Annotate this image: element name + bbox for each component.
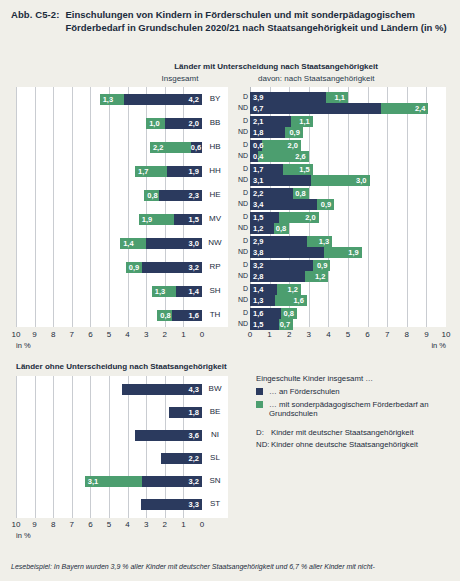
legend-item-grundschulen: … mit sonderpädagogischem Förderbedarf a… <box>256 400 456 419</box>
bar-value-label: 3,0 <box>146 238 199 249</box>
bar-value-label: 3,3 <box>141 499 199 510</box>
footnote: Lesebeispiel: In Bayern wurden 3,9 % all… <box>11 562 455 571</box>
subheading-davon: davon: nach Staatsangehörigkeit <box>258 74 458 83</box>
bar-value-label: 4,3 <box>122 384 199 395</box>
group-label-d: D <box>228 212 248 221</box>
bar-value-label: 1,5 <box>174 214 199 225</box>
bar-value-label: 1,0 <box>149 118 159 129</box>
axis-unit: in % <box>16 531 31 540</box>
plot-area-ohne: 4,31,83,62,23,13,23,3 <box>16 376 202 518</box>
bar-value-label: 1,1 <box>291 116 310 127</box>
bar-value-label: 3,2 <box>142 476 199 487</box>
figure-title-block: Abb. C5-2: Einschulungen von Kindern in … <box>11 9 453 34</box>
axis-tick: 9 <box>32 330 36 339</box>
bar-value-label: 3,6 <box>135 430 199 441</box>
chart-bottom-heading: Länder ohne Unterscheidung nach Staatsan… <box>16 362 227 371</box>
group-label-d: D <box>228 116 248 125</box>
axis-tick: 5 <box>107 520 111 529</box>
bar-value-label: 2,9 <box>253 236 263 247</box>
axis-tick: 10 <box>12 330 21 339</box>
group-label-d: D <box>228 260 248 269</box>
axis-tick: 2 <box>163 520 167 529</box>
group-label-d: D <box>228 140 248 149</box>
bar-value-label: 0,9 <box>317 199 332 210</box>
bar-value-label: 1,6 <box>275 295 303 306</box>
bar-value-label: 1,7 <box>138 166 148 177</box>
state-label-hb: HB <box>202 142 228 151</box>
bar-value-label: 3,2 <box>142 262 199 273</box>
axis-tick: 4 <box>125 330 129 339</box>
axis-tick: 9 <box>424 330 428 339</box>
legend-item-foerderschulen: … an Förderschulen <box>256 387 456 397</box>
bar-value-label: 3,8 <box>253 247 263 258</box>
group-label-nd: ND <box>228 271 248 280</box>
axis-tick: 8 <box>405 330 409 339</box>
gridlines-bottom <box>16 376 202 518</box>
state-label-nw: NW <box>202 238 228 247</box>
group-label-nd: ND <box>228 295 248 304</box>
axis-tick: 3 <box>144 330 148 339</box>
bar-value-label: 2,0 <box>165 118 199 129</box>
chart-top-heading-text: Länder mit Unterscheidung nach Staatsang… <box>126 62 426 71</box>
bar-value-label: 6,7 <box>253 103 263 114</box>
axis-tick: 8 <box>51 330 55 339</box>
group-labels-d-nd: DNDDNDDNDDNDDNDDNDDNDDNDDNDDND <box>228 87 250 327</box>
state-label-sh: SH <box>202 286 228 295</box>
axis-tick: 10 <box>12 520 21 529</box>
bar-value-label: 0,7 <box>279 319 290 330</box>
state-label-bb: BB <box>202 118 228 127</box>
bar-value-label: 2,0 <box>279 212 315 223</box>
bar-value-label: 2,4 <box>381 103 425 114</box>
plot-area-davon: 3,91,16,72,42,11,11,80,90,62,00,42,61,71… <box>250 87 446 327</box>
page-title: Einschulungen von Kindern in Förderschul… <box>66 9 454 34</box>
bar-value-label: 1,4 <box>253 284 263 295</box>
bar-value-label: 1,5 <box>253 212 263 223</box>
axis-tick: 9 <box>32 520 36 529</box>
bar-value-label: 2,2 <box>153 142 163 153</box>
group-label-nd: ND <box>228 247 248 256</box>
bar-value-label: 1,5 <box>253 319 263 330</box>
axis-unit: in % <box>431 341 446 350</box>
legend: Eingeschulte Kinder insgesamt … … an För… <box>256 374 456 449</box>
axis-tick: 2 <box>163 330 167 339</box>
bar-value-label: 1,2 <box>277 284 298 295</box>
bar-value-label: 3,0 <box>311 175 367 186</box>
axis-tick: 5 <box>346 330 350 339</box>
legend-title: Eingeschulte Kinder insgesamt … <box>256 374 456 383</box>
state-label-sl: SL <box>202 453 228 462</box>
bar-value-label: 1,3 <box>253 295 263 306</box>
axis-left-top: 109876543210in % <box>16 330 202 350</box>
bar-value-label: 0,6 <box>191 142 199 153</box>
subheading-insgesamt: Insgesamt <box>120 74 240 83</box>
bar-value-label: 1,3 <box>155 286 165 297</box>
chart-bottom: Länder ohne Unterscheidung nach Staatsan… <box>0 362 460 547</box>
group-label-nd: ND <box>228 151 248 160</box>
legend-swatch-navy-icon <box>256 388 263 395</box>
bar-value-label: 0,8 <box>274 223 287 234</box>
axis-tick: 5 <box>107 330 111 339</box>
bar-value-label: 0,9 <box>313 260 328 271</box>
plot-area-insgesamt: 1,34,21,02,02,20,61,71,90,82,31,91,51,43… <box>16 87 202 327</box>
axis-tick: 0 <box>200 520 204 529</box>
state-label-be: BE <box>202 407 228 416</box>
bar-value-label: 1,4 <box>176 286 199 297</box>
legend-def-key-d: D: <box>256 428 271 437</box>
bar-value-label: 1,8 <box>169 407 199 418</box>
legend-def-key-nd: ND: <box>256 440 271 449</box>
state-label-hh: HH <box>202 166 228 175</box>
bar-value-label: 1,7 <box>253 164 263 175</box>
group-label-nd: ND <box>228 127 248 136</box>
bar-value-label: 0,8 <box>160 310 170 321</box>
group-label-nd: ND <box>228 199 248 208</box>
bar-value-label: 1,2 <box>253 223 263 234</box>
bar-value-label: 0,9 <box>129 262 139 273</box>
figure-number: Abb. C5-2: <box>11 9 60 34</box>
legend-def-nd: ND: Kinder ohne deutsche Staatsangehörig… <box>256 440 456 449</box>
axis-tick: 7 <box>70 520 74 529</box>
state-label-st: ST <box>202 499 228 508</box>
group-label-nd: ND <box>228 223 248 232</box>
state-labels-top: BYBBHBHHHEMVNWRPSHTH <box>202 87 228 327</box>
axis-tick: 6 <box>88 330 92 339</box>
axis-tick: 6 <box>88 520 92 529</box>
state-label-ni: NI <box>202 430 228 439</box>
